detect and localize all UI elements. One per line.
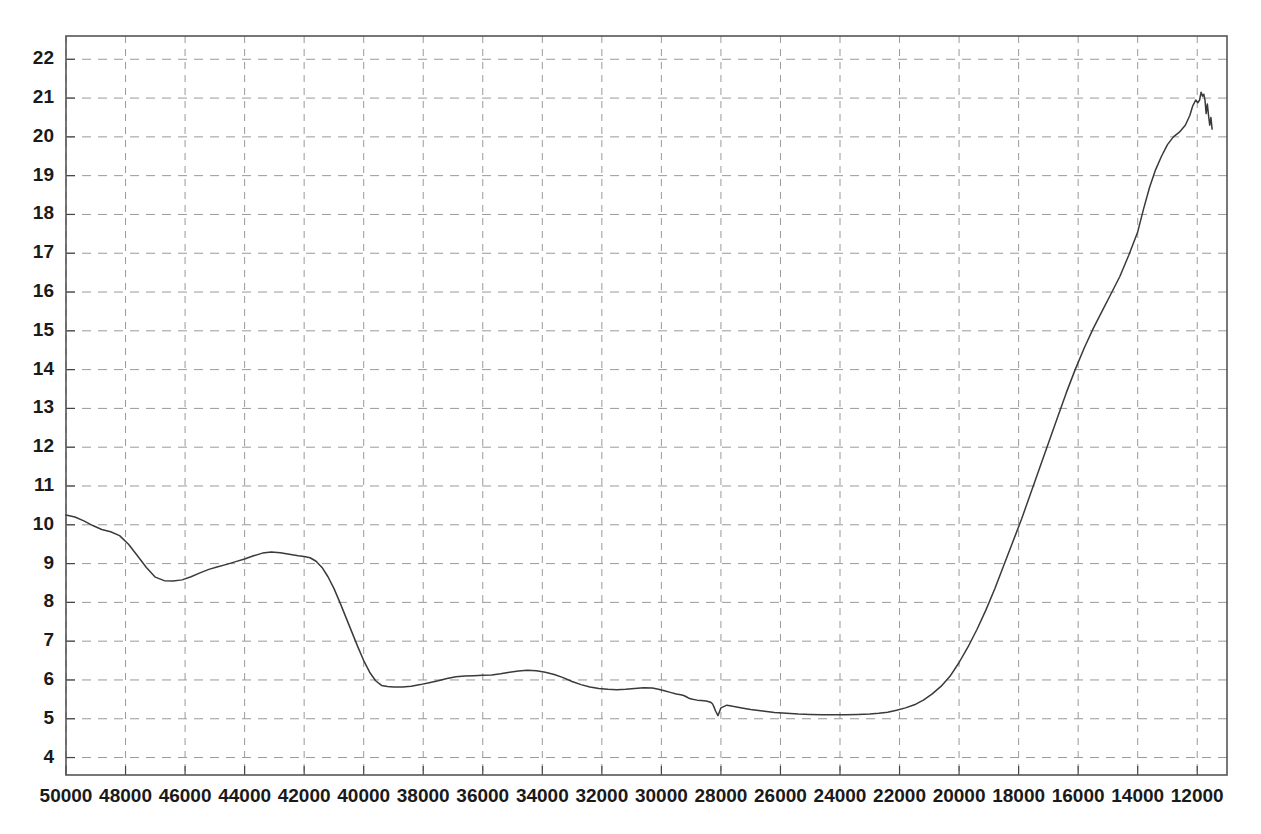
x-tick-label: 24000 [814,785,867,806]
x-tick-label: 22000 [873,785,926,806]
y-tick-label: 11 [34,474,55,495]
x-tick-label: 26000 [754,785,807,806]
x-tick-label: 18000 [992,785,1045,806]
y-tick-label: 17 [33,241,54,262]
x-tick-label: 38000 [397,785,450,806]
y-tick-label: 12 [33,435,54,456]
x-tick-label: 32000 [575,785,628,806]
x-tick-label: 14000 [1111,785,1164,806]
y-tick-label: 19 [33,164,54,185]
x-tick-label: 42000 [278,785,331,806]
y-tick-label: 6 [43,668,54,689]
y-tick-label: 15 [33,319,55,340]
x-tick-label: 50000 [40,785,93,806]
x-tick-label: 36000 [456,785,509,806]
y-tick-label: 9 [43,552,54,573]
x-tick-label: 40000 [337,785,390,806]
y-tick-label: 8 [43,590,54,611]
chart-page: 5000048000460004400042000400003800036000… [0,0,1261,834]
chart-background [0,0,1261,834]
x-tick-label: 30000 [635,785,688,806]
y-tick-label: 5 [43,707,54,728]
y-tick-label: 20 [33,125,54,146]
y-tick-label: 16 [33,280,54,301]
x-tick-label: 46000 [159,785,212,806]
x-tick-label: 34000 [516,785,569,806]
x-tick-label: 20000 [933,785,986,806]
x-tick-label: 16000 [1052,785,1105,806]
y-tick-label: 4 [43,746,54,767]
x-tick-label: 44000 [218,785,271,806]
y-tick-label: 14 [33,358,55,379]
y-tick-label: 22 [33,47,54,68]
y-tick-label: 21 [33,86,55,107]
x-tick-label: 12000 [1171,785,1224,806]
x-tick-label: 48000 [99,785,152,806]
y-tick-label: 13 [33,396,54,417]
y-tick-label: 18 [33,202,54,223]
x-tick-label: 28000 [695,785,748,806]
spectrum-line-chart: 5000048000460004400042000400003800036000… [0,0,1261,834]
y-tick-label: 7 [43,629,54,650]
y-tick-label: 10 [33,513,54,534]
